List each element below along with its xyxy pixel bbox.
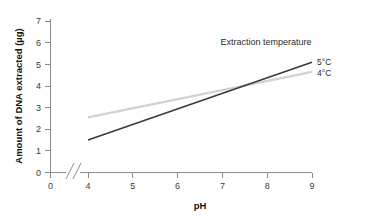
y-tick-label-3: 3: [36, 103, 41, 113]
x-tick-label-6: 6: [175, 181, 180, 191]
line-chart: 0 1 2 3 4 5 6 7 0 4 5 6 7 8 9 pH Amount …: [0, 0, 370, 219]
x-tick-label-5: 5: [130, 181, 135, 191]
y-tick-label-5: 5: [36, 60, 41, 70]
series-line-4c: [88, 72, 312, 117]
y-tick-label-7: 7: [36, 16, 41, 26]
axis-break-slash-2: [73, 163, 81, 179]
y-tick-label-4: 4: [36, 81, 41, 91]
x-tick-label-4: 4: [85, 181, 90, 191]
x-tick-label-8: 8: [265, 181, 270, 191]
x-tick-label-origin: 0: [48, 181, 53, 191]
legend-title: Extraction temperature: [220, 37, 311, 47]
legend-label-4c: 4°C: [317, 68, 331, 78]
y-tick-label-1: 1: [36, 146, 41, 156]
y-tick-label-6: 6: [36, 38, 41, 48]
y-tick-label-2: 2: [36, 124, 41, 134]
chart-container: 0 1 2 3 4 5 6 7 0 4 5 6 7 8 9 pH Amount …: [0, 0, 370, 219]
x-tick-label-9: 9: [309, 181, 314, 191]
axis-break-slash-1: [66, 163, 74, 179]
y-tick-label-0: 0: [36, 168, 41, 178]
x-axis-title: pH: [194, 200, 207, 211]
x-tick-label-7: 7: [220, 181, 225, 191]
legend-label-5c: 5°C: [317, 57, 331, 67]
series-line-5c: [88, 62, 312, 140]
y-axis-title: Amount of DNA extracted (µg): [13, 28, 24, 163]
